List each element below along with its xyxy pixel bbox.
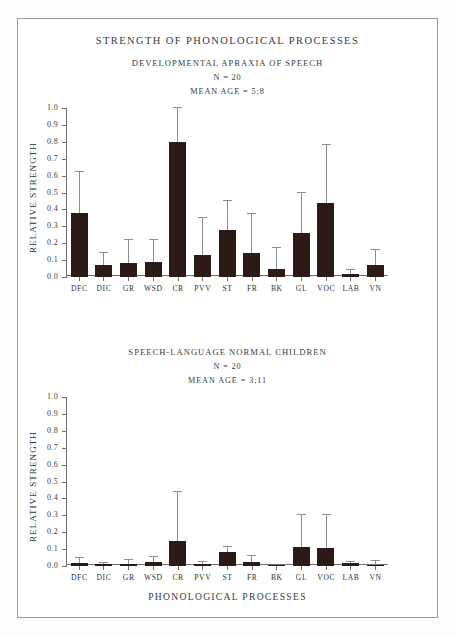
x-tick <box>128 277 129 281</box>
error-bar-cap <box>346 269 355 270</box>
panel-normal: SPEECH-LANGUAGE NORMAL CHILDREN N = 20 M… <box>0 347 455 583</box>
x-tick <box>227 277 228 281</box>
x-tick-label: CR <box>166 573 191 582</box>
y-tick-label: 1.0 <box>47 103 58 112</box>
error-bar-cap <box>198 217 207 218</box>
y-tick-label: 0.2 <box>47 527 58 536</box>
y-tick-label: 0.8 <box>47 426 58 435</box>
x-tick <box>202 277 203 281</box>
error-bar-cap <box>371 249 380 250</box>
y-tick-label: 0.4 <box>47 204 58 213</box>
error-bar-cap <box>173 107 182 108</box>
error-bar <box>103 253 104 265</box>
y-tick-label: 0.0 <box>47 272 58 281</box>
error-bar <box>153 240 154 262</box>
x-axis-title: PHONOLOGICAL PROCESSES <box>0 591 455 602</box>
plot-area: RELATIVE STRENGTH 0.00.10.20.30.40.50.60… <box>0 104 455 294</box>
x-tick-labels: DFCDICGRWSDCRPVVSTFRBKGLVOCLABVN <box>67 573 388 587</box>
bar <box>71 213 88 277</box>
figure-title: STRENGTH OF PHONOLOGICAL PROCESSES <box>0 35 455 46</box>
x-tick-label: LAB <box>339 573 364 582</box>
y-tick-label: 0.7 <box>47 443 58 452</box>
y-tick-label: 0.7 <box>47 154 58 163</box>
panel-mean-age-label: MEAN AGE = 3;11 <box>0 376 455 385</box>
bar <box>120 263 137 277</box>
bar-series <box>67 108 388 277</box>
bar-series <box>67 397 388 566</box>
y-tick-label: 1.0 <box>47 392 58 401</box>
error-bar <box>326 145 327 202</box>
error-bar <box>128 240 129 264</box>
y-tick-label: 0.1 <box>47 255 58 264</box>
x-tick-label: BK <box>265 573 290 582</box>
error-bar <box>375 561 376 565</box>
bar <box>367 265 384 277</box>
error-bar-cap <box>124 239 133 240</box>
x-tick-label: ST <box>215 573 240 582</box>
panel-title: SPEECH-LANGUAGE NORMAL CHILDREN <box>0 347 455 357</box>
y-tick-label: 0.2 <box>47 238 58 247</box>
x-tick-label: WSD <box>141 573 166 582</box>
error-bar <box>79 172 80 213</box>
x-tick <box>375 277 376 281</box>
axes: 0.00.10.20.30.40.50.60.70.80.91.0 DFCDIC… <box>66 397 388 565</box>
y-tick-label: 0.9 <box>47 409 58 418</box>
x-tick <box>202 566 203 570</box>
x-tick <box>79 277 80 281</box>
x-tick <box>178 277 179 281</box>
error-bar-cap <box>223 546 232 547</box>
x-tick-label: DIC <box>92 284 117 293</box>
x-tick-label: WSD <box>141 284 166 293</box>
x-tick <box>128 566 129 570</box>
x-ticks <box>67 277 388 282</box>
x-tick-label: VOC <box>314 573 339 582</box>
bar <box>219 552 236 566</box>
x-tick-label: FR <box>240 573 265 582</box>
bar <box>219 230 236 277</box>
error-bar <box>227 201 228 230</box>
y-axis-title: RELATIVE STRENGTH <box>28 427 42 547</box>
error-bar-cap <box>99 252 108 253</box>
x-tick-label: VN <box>363 284 388 293</box>
error-bar-cap <box>75 557 84 558</box>
y-tick-label: 0.3 <box>47 221 58 230</box>
error-bar <box>301 515 302 547</box>
y-tick-label: 0.5 <box>47 477 58 486</box>
error-bar-cap <box>322 144 331 145</box>
bar <box>169 541 186 566</box>
x-tick-label: VOC <box>314 284 339 293</box>
error-bar <box>79 558 80 563</box>
error-bar-cap <box>346 561 355 562</box>
plot-area: RELATIVE STRENGTH 0.00.10.20.30.40.50.60… <box>0 393 455 583</box>
x-tick <box>276 566 277 570</box>
error-bar-cap <box>223 200 232 201</box>
bar <box>268 269 285 277</box>
x-tick <box>350 566 351 570</box>
x-tick-label: CR <box>166 284 191 293</box>
y-tick-label: 0.5 <box>47 188 58 197</box>
x-tick <box>375 566 376 570</box>
x-tick <box>326 277 327 281</box>
error-bar <box>202 562 203 564</box>
x-tick <box>153 277 154 281</box>
x-tick <box>227 566 228 570</box>
error-bar-cap <box>173 491 182 492</box>
error-bar-cap <box>75 171 84 172</box>
bar <box>95 265 112 277</box>
panel-mean-age-label: MEAN AGE = 5;8 <box>0 87 455 96</box>
error-bar-cap <box>297 192 306 193</box>
error-bar <box>202 218 203 255</box>
error-bar <box>103 563 104 564</box>
error-bar <box>251 214 252 253</box>
x-tick-label: BK <box>265 284 290 293</box>
error-bar-cap <box>297 514 306 515</box>
x-tick <box>103 566 104 570</box>
error-bar-cap <box>99 562 108 563</box>
panel-n-label: N = 20 <box>0 73 455 82</box>
error-bar-cap <box>322 514 331 515</box>
x-tick-label: DFC <box>67 573 92 582</box>
x-tick <box>301 277 302 281</box>
error-bar-cap <box>272 247 281 248</box>
error-bar <box>227 547 228 553</box>
x-tick-label: GR <box>116 573 141 582</box>
